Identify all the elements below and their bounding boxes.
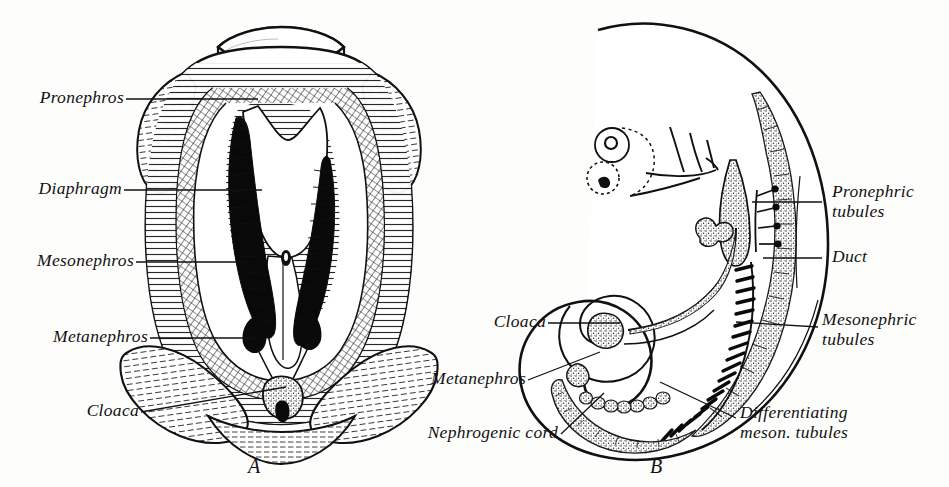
panel-letter-a: A <box>248 455 260 478</box>
label-cloaca-b: Cloaca <box>464 312 546 332</box>
panel-letter-b: B <box>650 455 662 478</box>
label-mesonephric-tubules-line1: Mesonephric <box>822 309 917 329</box>
label-pronephric-tubules-line1: Pronephric <box>832 181 914 201</box>
label-differentiating-line2: meson. tubules <box>740 422 848 442</box>
label-pronephros: Pronephros <box>18 88 124 108</box>
label-pronephric-tubules-line2: tubules <box>832 201 885 221</box>
figure-root: Pronephros Diaphragm Mesonephros Metanep… <box>0 0 949 487</box>
label-differentiating-meson-tubules: Differentiating meson. tubules <box>740 403 930 442</box>
label-metanephros-b: Metanephros <box>400 369 526 389</box>
label-metanephros: Metanephros <box>22 327 148 347</box>
label-mesonephric-tubules: Mesonephric tubules <box>822 310 944 349</box>
label-pronephric-tubules: Pronephric tubules <box>832 182 946 221</box>
label-duct: Duct <box>832 247 902 267</box>
label-mesonephric-tubules-line2: tubules <box>822 329 875 349</box>
label-nephrogenic-cord: Nephrogenic cord <box>392 423 558 443</box>
label-mesonephros: Mesonephros <box>8 251 134 271</box>
panel-a-artwork <box>120 27 437 464</box>
label-cloaca-a: Cloaca <box>57 401 139 421</box>
label-diaphragm: Diaphragm <box>14 179 122 199</box>
label-differentiating-line1: Differentiating <box>740 402 848 422</box>
